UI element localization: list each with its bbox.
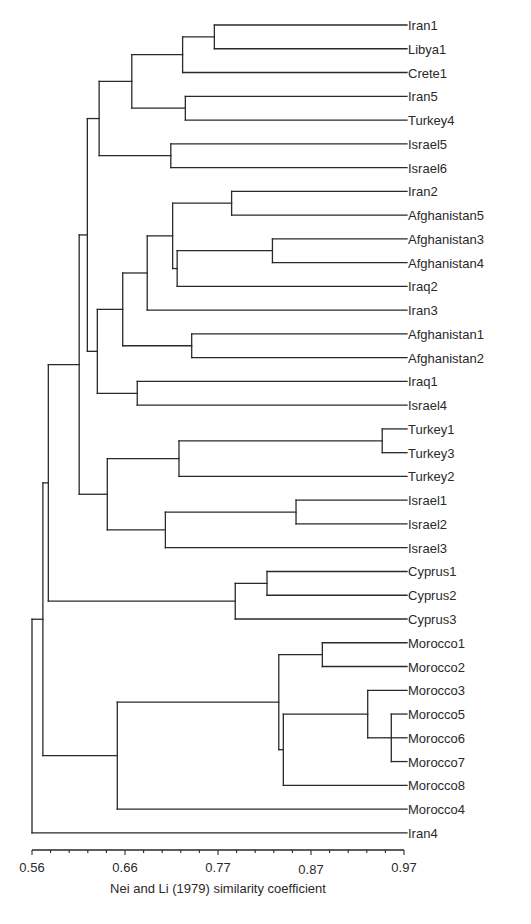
leaf-label: Iran1 (408, 18, 438, 33)
x-tick-label: 0.56 (19, 860, 44, 875)
leaf-label: Iran3 (408, 303, 438, 318)
leaf-label: Morocco6 (408, 731, 465, 746)
leaf-label: Libya1 (408, 42, 446, 57)
leaf-label: Turkey2 (408, 469, 454, 484)
leaf-label: Cyprus2 (408, 588, 456, 603)
leaf-label: Afghanistan5 (408, 208, 484, 223)
leaf-label: Israel3 (408, 541, 447, 556)
leaf-label: Cyprus1 (408, 564, 456, 579)
x-tick-label: 0.87 (298, 862, 323, 877)
leaf-label: Afghanistan1 (408, 327, 484, 342)
x-tick-label: 0.66 (112, 860, 137, 875)
leaf-label: Afghanistan4 (408, 256, 484, 271)
leaf-label: Israel5 (408, 137, 447, 152)
leaf-label: Israel1 (408, 493, 447, 508)
leaf-label: Iraq1 (408, 374, 438, 389)
leaf-label: Morocco1 (408, 636, 465, 651)
x-axis-title: Nei and Li (1979) similarity coefficient (110, 881, 326, 896)
x-tick-label: 0.77 (205, 860, 230, 875)
leaf-label: Morocco2 (408, 660, 465, 675)
leaf-label: Afghanistan3 (408, 232, 484, 247)
leaf-label: Morocco5 (408, 707, 465, 722)
leaf-label: Iran4 (408, 826, 438, 841)
leaf-label: Israel2 (408, 517, 447, 532)
leaf-label: Turkey4 (408, 113, 454, 128)
leaf-label: Morocco3 (408, 683, 465, 698)
x-axis-ticks (32, 850, 404, 855)
leaf-label: Turkey3 (408, 446, 454, 461)
leaf-labels: Iran1Libya1Crete1Iran5Turkey4Israel5Isra… (408, 18, 484, 841)
x-tick-label: 0.97 (391, 860, 416, 875)
leaf-label: Iran2 (408, 184, 438, 199)
leaf-label: Cyprus3 (408, 612, 456, 627)
leaf-label: Afghanistan2 (408, 351, 484, 366)
x-axis-tick-labels: 0.560.660.770.870.97 (19, 860, 416, 877)
leaf-label: Turkey1 (408, 422, 454, 437)
leaf-label: Iraq2 (408, 279, 438, 294)
dendrogram-branches (32, 25, 407, 833)
leaf-label: Israel4 (408, 398, 447, 413)
leaf-label: Morocco8 (408, 778, 465, 793)
leaf-label: Iran5 (408, 89, 438, 104)
leaf-label: Israel6 (408, 161, 447, 176)
leaf-label: Morocco7 (408, 755, 465, 770)
x-axis: 0.560.660.770.870.97 Nei and Li (1979) s… (19, 850, 416, 896)
dendrogram-chart: Iran1Libya1Crete1Iran5Turkey4Israel5Isra… (0, 0, 531, 924)
leaf-label: Morocco4 (408, 802, 465, 817)
leaf-label: Crete1 (408, 66, 447, 81)
